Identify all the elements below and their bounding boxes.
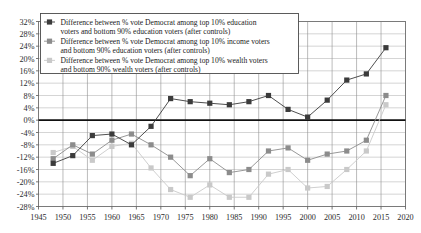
series-marker	[129, 142, 134, 147]
legend-marker	[47, 39, 52, 44]
y-tick-label: -4%	[21, 129, 35, 138]
line-chart: 32%28%24%20%16%12%8%4%0%-4%-8%-12%-16%-2…	[0, 0, 421, 233]
x-tick-label: 1980	[202, 213, 218, 222]
y-tick-label: 0%	[24, 116, 35, 125]
series-marker	[325, 151, 330, 156]
series-marker	[168, 187, 173, 192]
legend-label-line2: voters and bottom 90% education voters (…	[61, 27, 231, 36]
series-marker	[364, 148, 369, 153]
series-marker	[364, 138, 369, 143]
series-marker	[285, 107, 290, 112]
x-tick-label: 1960	[104, 213, 120, 222]
series-marker	[90, 158, 95, 163]
series-marker	[51, 161, 56, 166]
y-tick-label: -8%	[21, 141, 35, 150]
series-marker	[148, 142, 153, 147]
series-marker	[129, 131, 134, 136]
x-tick-label: 1990	[251, 213, 267, 222]
x-axis: 1945195019551960196519701975198019851990…	[30, 207, 413, 222]
y-tick-label: 32%	[19, 18, 34, 27]
series-marker	[246, 195, 251, 200]
series-marker	[364, 71, 369, 76]
x-tick-label: 1995	[275, 213, 291, 222]
series-marker	[70, 153, 75, 158]
y-tick-label: 28%	[19, 30, 34, 39]
series-marker	[285, 145, 290, 150]
chart-legend: Difference between % vote Democrat among…	[41, 14, 299, 75]
series-marker	[109, 138, 114, 143]
series-marker	[344, 77, 349, 82]
legend-marker	[47, 19, 52, 24]
series-marker	[207, 156, 212, 161]
series-marker	[70, 142, 75, 147]
x-tick-label: 2020	[397, 213, 413, 222]
series-marker	[168, 96, 173, 101]
y-tick-label: -16%	[17, 166, 35, 175]
y-tick-label: -20%	[17, 178, 35, 187]
series-marker	[51, 150, 56, 155]
series-marker	[325, 98, 330, 103]
chart-container: 32%28%24%20%16%12%8%4%0%-4%-8%-12%-16%-2…	[0, 0, 421, 233]
y-tick-label: 16%	[19, 67, 34, 76]
series-marker	[344, 148, 349, 153]
legend-label-line1: Difference between % vote Democrat among…	[61, 37, 270, 46]
y-tick-label: -24%	[17, 190, 35, 199]
series-marker	[383, 102, 388, 107]
legend-label-line2: and bottom 90% education voters (after c…	[61, 46, 211, 55]
legend-label-line1: Difference between % vote Democrat among…	[61, 18, 257, 27]
x-tick-label: 2010	[348, 213, 364, 222]
series-marker	[90, 151, 95, 156]
series-marker	[246, 99, 251, 104]
series-marker	[227, 195, 232, 200]
series-marker	[246, 167, 251, 172]
y-tick-label: 20%	[19, 55, 34, 64]
series-marker	[51, 156, 56, 161]
series-marker	[168, 155, 173, 160]
series-marker	[207, 101, 212, 106]
series-marker	[305, 114, 310, 119]
series-marker	[285, 167, 290, 172]
series-marker	[305, 158, 310, 163]
x-tick-label: 2005	[324, 213, 340, 222]
x-tick-label: 2000	[299, 213, 315, 222]
y-tick-label: -12%	[17, 153, 35, 162]
series-marker	[383, 93, 388, 98]
x-tick-label: 1985	[226, 213, 242, 222]
series-marker	[344, 167, 349, 172]
series-marker	[148, 165, 153, 170]
series-marker	[188, 173, 193, 178]
series-marker	[325, 184, 330, 189]
series-marker	[148, 124, 153, 129]
series-marker	[266, 172, 271, 177]
y-tick-label: 8%	[24, 92, 35, 101]
series-marker	[266, 93, 271, 98]
series-marker	[90, 133, 95, 138]
x-tick-label: 1965	[128, 213, 144, 222]
x-tick-label: 1945	[30, 213, 46, 222]
series-marker	[305, 185, 310, 190]
series-marker	[207, 182, 212, 187]
series-marker	[188, 195, 193, 200]
series-marker	[109, 144, 114, 149]
series-marker	[266, 148, 271, 153]
y-tick-label: 24%	[19, 42, 34, 51]
x-tick-label: 1975	[177, 213, 193, 222]
y-axis: 32%28%24%20%16%12%8%4%0%-4%-8%-12%-16%-2…	[17, 18, 39, 212]
y-tick-label: -28%	[17, 203, 35, 212]
series-marker	[227, 170, 232, 175]
x-tick-label: 1950	[55, 213, 71, 222]
x-tick-label: 1970	[153, 213, 169, 222]
series-marker	[188, 99, 193, 104]
x-tick-label: 1955	[79, 213, 95, 222]
legend-label-line1: Difference between % vote Democrat among…	[61, 56, 268, 65]
legend-marker	[47, 58, 52, 63]
y-tick-label: 12%	[19, 79, 34, 88]
series-marker	[383, 45, 388, 50]
series-marker	[227, 102, 232, 107]
x-tick-label: 2015	[373, 213, 389, 222]
series-marker	[109, 131, 114, 136]
y-tick-label: 4%	[24, 104, 35, 113]
legend-label-line2: and bottom 90% wealth voters (after cont…	[61, 65, 201, 74]
